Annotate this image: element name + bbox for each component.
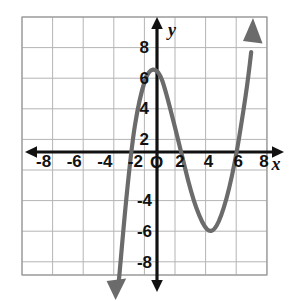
x-tick-label-2: 2 [175, 152, 184, 171]
x-tick-label--4: -4 [97, 152, 113, 171]
y-tick-label-6: 6 [140, 69, 149, 88]
x-tick-label-6: 6 [233, 152, 242, 171]
x-tick-label--6: -6 [67, 152, 82, 171]
y-tick-label-8: 8 [140, 38, 149, 57]
x-tick-label--2: -2 [128, 152, 143, 171]
graph-svg: -8 -6 -4 -2 2 4 6 8 8 6 4 2 -4 -6 -8 O x… [0, 0, 297, 301]
x-tick-label--8: -8 [36, 152, 51, 171]
y-tick-label-2: 2 [140, 130, 149, 149]
coordinate-graph-figure: -8 -6 -4 -2 2 4 6 8 8 6 4 2 -4 -6 -8 O x… [0, 0, 297, 301]
y-tick-label-4: 4 [140, 99, 150, 118]
y-tick-label--4: -4 [137, 191, 153, 210]
origin-label: O [150, 153, 163, 172]
y-axis-label: y [166, 20, 177, 40]
x-axis-label: x [271, 154, 281, 174]
y-tick-label--6: -6 [137, 222, 152, 241]
y-tick-label--8: -8 [137, 253, 152, 272]
x-tick-label-8: 8 [259, 152, 268, 171]
x-tick-label-4: 4 [204, 152, 214, 171]
